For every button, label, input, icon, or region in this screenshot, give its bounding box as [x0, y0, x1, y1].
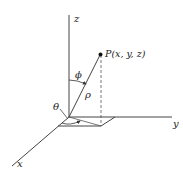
point-p [99, 53, 103, 57]
z-axis-label: z [73, 13, 80, 24]
projection-parallelogram [58, 117, 115, 126]
spherical-coordinates-diagram: z y x P(x, y, z) ϕ ρ θ [0, 0, 183, 179]
x-axis-label: x [17, 158, 23, 169]
phi-arc-icon [69, 80, 86, 84]
theta-arc-icon [62, 121, 80, 124]
rho-line [69, 55, 100, 117]
theta-label: θ [53, 101, 59, 112]
phi-label: ϕ [75, 69, 82, 80]
point-p-label: P(x, y, z) [104, 48, 146, 59]
projection-line [69, 117, 101, 126]
y-axis-label: y [172, 118, 179, 129]
rho-label: ρ [84, 89, 91, 100]
theta-leader [60, 109, 68, 119]
